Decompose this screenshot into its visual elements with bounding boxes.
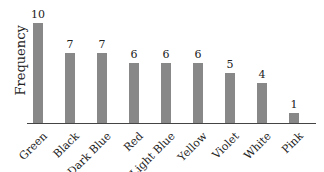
bar-yellow	[193, 63, 203, 123]
bar-violet	[225, 73, 235, 123]
bar-green	[33, 23, 43, 123]
bar-light-blue	[161, 63, 171, 123]
data-label: 4	[259, 68, 266, 81]
data-label: 6	[131, 48, 138, 61]
chart-canvas: 10Green7Black7Dark Blue6Red6Light Blue6Y…	[0, 0, 324, 172]
x-tick-label: White	[241, 130, 273, 162]
data-label: 7	[99, 38, 106, 51]
bar-dark-blue	[97, 53, 107, 123]
data-label: 1	[291, 98, 298, 111]
bar-pink	[289, 113, 299, 123]
data-label: 6	[195, 48, 202, 61]
x-tick-label: Pink	[279, 129, 306, 156]
x-tick-label: Violet	[209, 129, 242, 162]
x-tick-label: Green	[16, 130, 49, 163]
data-label: 10	[31, 8, 45, 21]
bar-white	[257, 83, 267, 123]
data-label: 5	[227, 58, 234, 71]
bar-red	[129, 63, 139, 123]
bar-black	[65, 53, 75, 123]
data-label: 7	[67, 38, 74, 51]
x-tick-label: Yellow	[175, 129, 211, 165]
x-tick-label: Red	[121, 130, 146, 155]
data-label: 6	[163, 48, 170, 61]
